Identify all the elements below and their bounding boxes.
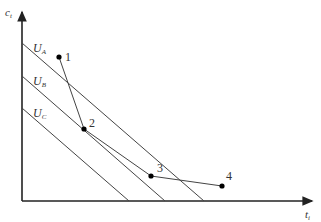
curve-uc-label: UC (33, 106, 47, 121)
point-path (59, 57, 222, 186)
point-2-label: 2 (89, 116, 95, 130)
y-axis-label: ct (5, 6, 13, 20)
x-axis-label: ti (305, 208, 310, 222)
point-1 (56, 54, 61, 59)
point-2 (81, 126, 86, 131)
diagram: ct ti UA UB UC 1 2 3 4 (0, 0, 321, 222)
curve-ua (22, 43, 204, 201)
curve-ua-label: UA (33, 41, 47, 56)
point-4 (219, 183, 224, 188)
point-3-label: 3 (157, 161, 163, 175)
curve-ub-label: UB (33, 74, 47, 89)
curve-ub (22, 76, 165, 201)
point-1-label: 1 (65, 50, 71, 64)
point-4-label: 4 (226, 169, 232, 183)
point-3 (148, 173, 153, 178)
diagram-canvas: ct ti UA UB UC 1 2 3 4 (0, 0, 321, 222)
